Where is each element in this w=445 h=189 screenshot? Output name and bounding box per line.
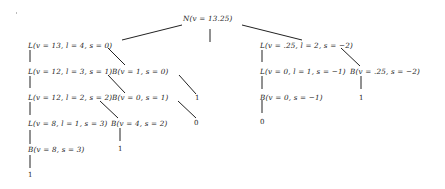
edge-r1-rb1 — [341, 48, 360, 66]
node-l2: L(v = 12, l = 3, s = 1) — [28, 67, 112, 76]
edge-l2-b2 — [108, 75, 125, 93]
leaf-b1: 1 — [195, 94, 199, 103]
leaf-b4: 1 — [28, 171, 32, 180]
node-l4: L(v = 8, l = 1, s = 3) — [28, 119, 107, 128]
root-node: N(v = 13.25) — [183, 14, 233, 23]
node-r1: L(v = .25, l = 2, s = −2) — [260, 41, 353, 50]
leaf-rb2: 0 — [260, 118, 264, 127]
leaf-b2: 0 — [194, 119, 198, 128]
node-rb2: B(v = 0, s = −1) — [260, 93, 323, 102]
edge-b1-leaf — [179, 75, 196, 94]
edge-l3-b3 — [100, 101, 118, 118]
edge-root-l1 — [122, 25, 182, 40]
leaf-b3: 1 — [118, 145, 122, 154]
node-b3: B(v = 4, s = 2) — [111, 119, 168, 128]
edge-root-r1 — [242, 25, 302, 40]
edge-b2-leaf — [178, 101, 196, 118]
node-l1: L(v = 13, l = 4, s = 0) — [28, 41, 112, 50]
node-l3: L(v = 12, l = 2, s = 2) — [28, 93, 112, 102]
node-rb1: B(v = .25, s = −2) — [350, 67, 420, 76]
leaf-rb1: 1 — [359, 94, 363, 103]
node-r2: L(v = 0, l = 1, s = −1) — [260, 67, 346, 76]
node-b4: B(v = 8, s = 3) — [28, 145, 85, 154]
node-b2: B(v = 0, s = 1) — [112, 93, 169, 102]
node-b1: B(v = 1, s = 0) — [112, 67, 169, 76]
edge-l1-b1 — [108, 48, 125, 65]
speck-mark — [16, 12, 17, 14]
